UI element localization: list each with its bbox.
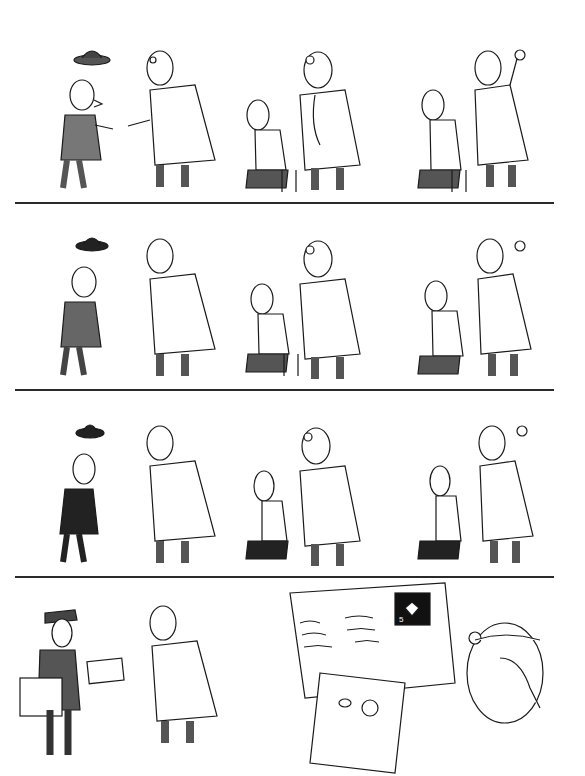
mail-bag-icon bbox=[20, 678, 62, 716]
doctor-figure bbox=[128, 51, 215, 187]
doctor-figure bbox=[147, 426, 215, 563]
svg-text:5: 5 bbox=[399, 615, 404, 624]
seated-patient-figure bbox=[246, 471, 288, 559]
comic-row-3 bbox=[0, 391, 585, 576]
row-2-illustration bbox=[0, 204, 585, 389]
doctor-ok-gesture-figure bbox=[477, 239, 531, 376]
seated-patient-figure bbox=[418, 466, 461, 559]
postcard-icon bbox=[87, 658, 124, 684]
seated-patient-figure bbox=[418, 281, 463, 374]
doctor-figure bbox=[147, 239, 215, 376]
patient-greeting-figure bbox=[61, 51, 113, 188]
comic-row-2 bbox=[0, 204, 585, 389]
ok-hand-icon bbox=[515, 50, 525, 60]
head-mirror-icon bbox=[306, 56, 314, 64]
doctor-stethoscope-figure bbox=[300, 241, 360, 379]
angel-picture-postcard-icon bbox=[310, 673, 405, 773]
row-4-illustration: 5 bbox=[0, 578, 585, 776]
seated-patient-figure bbox=[246, 284, 298, 376]
postcard-closeup: 5 bbox=[290, 583, 455, 773]
doctor-stethoscope-figure bbox=[300, 52, 360, 190]
seated-patient-figure bbox=[246, 100, 296, 192]
postman-figure bbox=[20, 610, 124, 755]
head-mirror-icon bbox=[469, 632, 481, 644]
doctor-ok-gesture-figure bbox=[479, 426, 533, 563]
doctor-stethoscope-figure bbox=[300, 428, 360, 566]
doctor-ok-gesture-figure bbox=[475, 50, 528, 187]
row-1-illustration bbox=[0, 0, 585, 202]
doctor-figure bbox=[150, 606, 217, 743]
dismayed-doctor-closeup bbox=[467, 623, 543, 723]
comic-row-1 bbox=[0, 0, 585, 202]
seated-patient-figure bbox=[418, 90, 466, 192]
patient-greeting-figure bbox=[61, 238, 108, 375]
patient-greeting-figure bbox=[60, 425, 104, 562]
comic-row-4: 5 bbox=[0, 578, 585, 776]
row-3-illustration bbox=[0, 391, 585, 576]
